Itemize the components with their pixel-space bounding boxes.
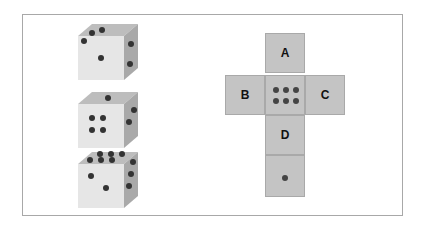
- pip: [283, 98, 289, 104]
- pip: [273, 87, 279, 93]
- pip: [293, 98, 299, 104]
- pip: [293, 87, 299, 93]
- net-face-a: A: [265, 33, 305, 73]
- face-a-label: A: [281, 46, 290, 60]
- pip: [273, 98, 279, 104]
- net-face-b: B: [225, 75, 265, 115]
- die-2: [74, 88, 144, 150]
- net-face-center: [265, 75, 305, 115]
- net-face-bottom: [265, 155, 305, 197]
- face-b-label: B: [241, 88, 250, 102]
- face-c-label: C: [321, 88, 330, 102]
- pip: [283, 87, 289, 93]
- face-d-label: D: [281, 128, 290, 142]
- net-face-c: C: [305, 75, 345, 115]
- die-3-graphic: [74, 148, 144, 210]
- die-3: [74, 148, 144, 210]
- net-face-d: D: [265, 115, 305, 155]
- die-2-graphic: [74, 88, 144, 150]
- die-1-graphic: [74, 20, 144, 82]
- pip: [282, 175, 288, 181]
- die-1: [74, 20, 144, 82]
